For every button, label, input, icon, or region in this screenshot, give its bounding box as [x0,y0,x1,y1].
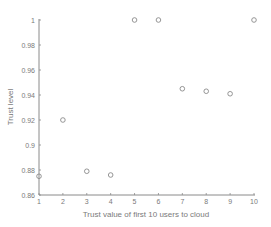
data-point [132,18,137,23]
y-tick-label: 0.9 [25,142,35,149]
data-point [61,118,66,123]
x-tick-label: 5 [133,198,137,205]
x-tick-label: 7 [180,198,184,205]
x-tick-label: 2 [61,198,65,205]
y-tick-label: 0.88 [21,167,35,174]
y-axis-label: Trust level [6,88,15,125]
data-point [108,173,113,178]
x-tick-label: 10 [250,198,258,205]
scatter-chart: 123456789100.860.880.90.920.940.960.981 … [0,0,271,227]
data-point [156,18,161,23]
x-tick-label: 1 [37,198,41,205]
y-tick-label: 0.92 [21,117,35,124]
y-tick-label: 0.94 [21,92,35,99]
data-points [37,18,257,179]
x-tick-label: 9 [228,198,232,205]
x-tick-label: 4 [109,198,113,205]
data-point [252,18,257,23]
data-point [228,91,233,96]
data-point [180,86,185,91]
data-point [204,89,209,94]
y-tick-label: 0.98 [21,42,35,49]
y-tick-label: 1 [31,17,35,24]
x-axis-label: Trust value of first 10 users to cloud [83,210,209,219]
chart-canvas: 123456789100.860.880.90.920.940.960.981 … [0,0,271,227]
y-tick-label: 0.86 [21,192,35,199]
x-tick-label: 6 [156,198,160,205]
x-tick-label: 3 [85,198,89,205]
x-tick-label: 8 [204,198,208,205]
axes: 123456789100.860.880.90.920.940.960.981 [21,17,258,206]
data-point [84,169,89,174]
y-tick-label: 0.96 [21,67,35,74]
